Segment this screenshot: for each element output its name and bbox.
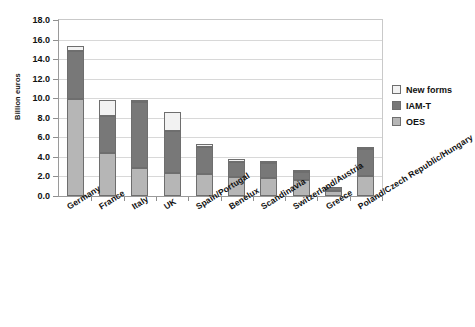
bar-group[interactable] [325,20,342,196]
bar-segment[interactable] [196,147,213,174]
y-axis-tick-label: 18.0 [4,15,50,25]
y-axis-tick-label: 12.0 [4,74,50,84]
y-axis-tick-mark [53,196,58,197]
bar-segment[interactable] [67,46,84,51]
y-axis-tick-mark [53,40,58,41]
y-axis-tick-label: 6.0 [4,132,50,142]
bar-segment[interactable] [260,161,277,163]
bar-segment[interactable] [67,99,84,196]
y-axis-tick-mark [53,137,58,138]
bar-group[interactable] [131,20,148,196]
y-axis-tick-mark [53,59,58,60]
bar-segment[interactable] [99,116,116,153]
bar-group[interactable] [228,20,245,196]
y-axis-tick-label: 4.0 [4,152,50,162]
y-axis-tick-label: 14.0 [4,54,50,64]
bar-group[interactable] [196,20,213,196]
bar-segment[interactable] [357,147,374,149]
bar-segment[interactable] [164,131,181,172]
bar-segment[interactable] [131,168,148,196]
bar-group[interactable] [293,20,310,196]
legend-item: IAM-T [392,98,452,113]
bar-segment[interactable] [293,170,310,172]
bar-group[interactable] [164,20,181,196]
legend-item: OES [392,114,452,129]
bar-segment[interactable] [99,100,116,116]
bar-segment[interactable] [228,159,245,162]
bar-segment[interactable] [260,163,277,178]
legend-swatch-icon [392,117,401,126]
y-axis-tick-label: 10.0 [4,93,50,103]
bar-group[interactable] [67,20,84,196]
y-axis-tick-mark [53,118,58,119]
legend-label: New forms [406,85,452,95]
legend-swatch-icon [392,101,401,110]
y-axis-tick-label: 16.0 [4,35,50,45]
legend-label: IAM-T [406,101,431,111]
y-axis-tick-mark [53,157,58,158]
chart-legend: New formsIAM-TOES [392,82,452,130]
x-axis-category-label: UK [162,196,178,211]
x-axis-tick-mark [188,197,189,201]
y-axis-tick-mark [53,176,58,177]
bar-segment[interactable] [67,51,84,98]
y-axis-tick-label: 0.0 [4,191,50,201]
y-axis-tick-mark [53,98,58,99]
bar-group[interactable] [260,20,277,196]
bars-layer [59,20,382,196]
y-axis-tick-mark [53,79,58,80]
bar-segment[interactable] [196,144,213,146]
bar-segment[interactable] [131,102,148,168]
x-axis-tick-mark [156,197,157,201]
bar-segment[interactable] [164,112,181,132]
legend-swatch-icon [392,85,401,94]
y-axis-tick-mark [53,20,58,21]
y-axis-tick-label: 2.0 [4,171,50,181]
bar-group[interactable] [99,20,116,196]
legend-label: OES [406,117,425,127]
y-axis-tick-label: 8.0 [4,113,50,123]
bar-segment[interactable] [131,100,148,102]
bar-segment[interactable] [164,173,181,196]
legend-item: New forms [392,82,452,97]
